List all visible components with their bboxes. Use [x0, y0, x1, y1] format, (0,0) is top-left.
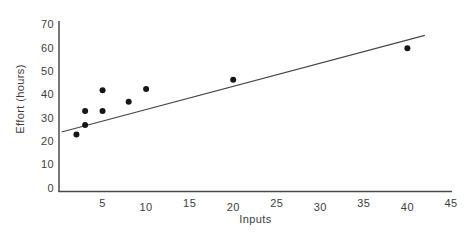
y-tick-label: 20: [28, 135, 54, 148]
x-tick-label: 15: [178, 197, 202, 210]
trend-line: [62, 35, 425, 132]
data-point: [404, 45, 410, 51]
x-tick-label: 5: [91, 197, 115, 210]
x-tick-label: 40: [395, 201, 419, 214]
x-tick-label: 10: [134, 201, 158, 214]
effort-vs-inputs-scatter-chart: 010203040506070 51015202530354045 Effort…: [0, 0, 476, 238]
y-axis-title: Effort (hours): [14, 64, 26, 134]
x-tick-label: 45: [439, 197, 463, 210]
data-point: [126, 99, 132, 105]
y-tick-label: 0: [28, 182, 54, 195]
y-tick-label: 50: [28, 65, 54, 78]
y-tick-label: 30: [28, 112, 54, 125]
y-tick-label: 40: [28, 88, 54, 101]
y-tick-label: 10: [28, 158, 54, 171]
y-tick-label: 60: [28, 42, 54, 55]
data-point: [100, 87, 106, 93]
x-tick-label: 30: [308, 201, 332, 214]
x-tick-label: 20: [221, 201, 245, 214]
data-point: [143, 86, 149, 92]
x-tick-label: 25: [265, 197, 289, 210]
data-point: [73, 131, 79, 137]
x-axis-title: Inputs: [59, 213, 452, 225]
x-tick-label: 35: [352, 197, 376, 210]
data-point: [82, 122, 88, 128]
data-point: [100, 108, 106, 114]
y-tick-label: 70: [28, 18, 54, 31]
data-point: [230, 77, 236, 83]
data-point: [82, 108, 88, 114]
